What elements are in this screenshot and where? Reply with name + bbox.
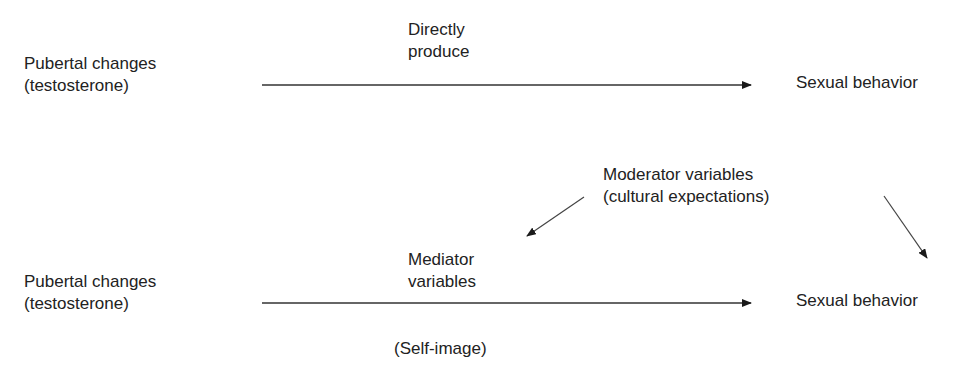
moderator-line2: (cultural expectations) bbox=[603, 186, 769, 208]
top-source-node: Pubertal changes (testosterone) bbox=[24, 53, 156, 97]
top-target-node: Sexual behavior bbox=[796, 72, 918, 94]
mediator-example: (Self-image) bbox=[394, 338, 487, 360]
top-target-label: Sexual behavior bbox=[796, 72, 918, 94]
top-source-line2: (testosterone) bbox=[24, 75, 156, 97]
moderator-line1: Moderator variables bbox=[603, 164, 769, 186]
mediator-example-label: (Self-image) bbox=[394, 338, 487, 360]
direct-effect-line1: Directly bbox=[408, 19, 469, 41]
bottom-source-line1: Pubertal changes bbox=[24, 271, 156, 293]
bottom-target-node: Sexual behavior bbox=[796, 290, 918, 312]
bottom-source-node: Pubertal changes (testosterone) bbox=[24, 271, 156, 315]
direct-effect-label: Directly produce bbox=[408, 19, 469, 63]
mediator-node: Mediator variables bbox=[408, 249, 476, 293]
mediator-line2: variables bbox=[408, 271, 476, 293]
bottom-source-line2: (testosterone) bbox=[24, 293, 156, 315]
moderator-to-mediator-arrow bbox=[527, 197, 584, 236]
moderator-node: Moderator variables (cultural expectatio… bbox=[603, 164, 769, 208]
direct-effect-line2: produce bbox=[408, 41, 469, 63]
bottom-target-label: Sexual behavior bbox=[796, 290, 918, 312]
top-source-line1: Pubertal changes bbox=[24, 53, 156, 75]
moderator-to-outcome-arrow bbox=[884, 196, 927, 258]
mediator-line1: Mediator bbox=[408, 249, 476, 271]
